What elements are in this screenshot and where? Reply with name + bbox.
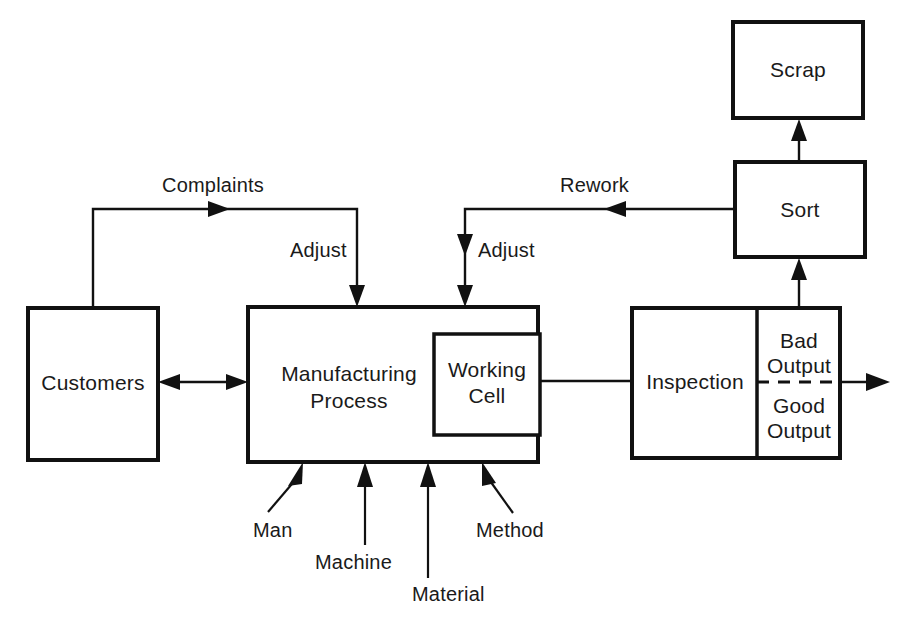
arrowhead-machine — [357, 462, 373, 487]
good-output-label-line2: Output — [767, 419, 831, 442]
customers-label: Customers — [41, 371, 144, 394]
arrowhead-into-sort — [791, 258, 807, 280]
edge-rework-adjust: Rework Adjust — [457, 174, 735, 307]
arrowhead-man — [288, 462, 303, 486]
arrowhead-adjust-left-into-mp — [349, 285, 365, 307]
good-output-label-line1: Good — [773, 394, 825, 417]
arrowhead-left-to-customers — [158, 374, 180, 390]
bad-output-label-line2: Output — [767, 354, 831, 377]
rework-label: Rework — [560, 174, 630, 196]
scrap-label: Scrap — [770, 58, 826, 81]
arrowhead-adjust-right-mid — [457, 234, 473, 256]
arrowhead-adjust-right-into-mp — [457, 285, 473, 307]
node-sort[interactable]: Sort — [735, 162, 865, 257]
manufacturing-process-label-line2: Process — [310, 389, 387, 412]
sort-label: Sort — [780, 198, 819, 221]
working-cell-label-line2: Cell — [469, 384, 506, 407]
input-method: Method — [476, 462, 544, 541]
arrowhead-method — [482, 462, 496, 486]
arrowhead-right-to-mp — [226, 374, 248, 390]
working-cell-label-line1: Working — [448, 358, 526, 381]
input-man: Man — [253, 462, 303, 541]
manufacturing-process-label-line1: Manufacturing — [281, 362, 417, 385]
node-customers[interactable]: Customers — [28, 308, 158, 460]
input-machine: Machine — [315, 462, 392, 573]
arrowhead-into-scrap — [791, 119, 807, 141]
inspection-label: Inspection — [646, 370, 744, 393]
adjust-right-label: Adjust — [478, 239, 535, 261]
adjust-left-label: Adjust — [290, 239, 347, 261]
edge-sort-to-scrap — [791, 119, 807, 162]
material-label: Material — [412, 583, 485, 605]
node-scrap[interactable]: Scrap — [733, 22, 863, 118]
node-working-cell[interactable]: Working Cell — [434, 334, 540, 435]
complaints-label: Complaints — [162, 174, 264, 196]
machine-label: Machine — [315, 551, 392, 573]
bad-output-label-line1: Bad — [780, 329, 818, 352]
arrowhead-material — [420, 462, 436, 487]
man-label: Man — [253, 519, 293, 541]
edge-complaints-adjust: Complaints Adjust — [93, 174, 365, 308]
arrowhead-output-out — [866, 373, 890, 391]
process-flow-diagram: Customers Manufacturing Process Working … — [0, 0, 915, 641]
arrowhead-complaints-mid — [208, 201, 230, 217]
method-label: Method — [476, 519, 544, 541]
edge-good-output-out — [840, 373, 890, 391]
edge-bad-output-to-sort — [791, 258, 807, 308]
arrowhead-rework-mid — [604, 201, 626, 217]
diagram-canvas: Customers Manufacturing Process Working … — [0, 0, 915, 641]
input-material: Material — [412, 462, 485, 605]
edge-customers-manufacturing — [158, 374, 248, 390]
